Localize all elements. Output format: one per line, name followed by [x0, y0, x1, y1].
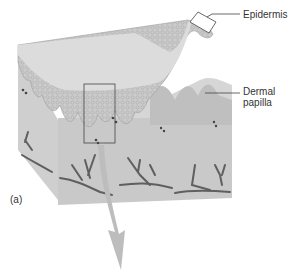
dermal-papilla-label-line2: papilla [243, 97, 293, 108]
panel-label: (a) [10, 194, 22, 205]
dermal-papilla-label: Dermal papilla [243, 86, 293, 108]
dermal-papilla-label-line1: Dermal [243, 86, 293, 97]
skin-illustration [0, 0, 295, 278]
skin-cross-section-figure: Epidermis Dermal papilla (a) [0, 0, 295, 278]
epidermis-label: Epidermis [243, 9, 287, 20]
